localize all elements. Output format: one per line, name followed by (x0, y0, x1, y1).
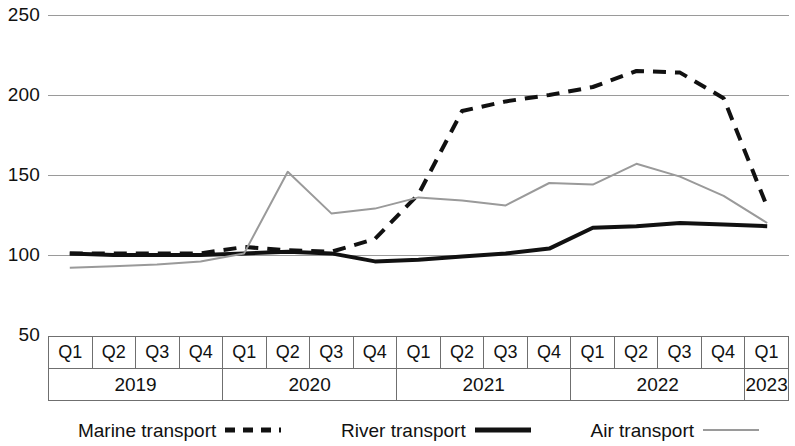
legend-label: Air transport (591, 421, 694, 440)
y-axis-tick-200: 200 (0, 85, 40, 104)
line-chart: 25020015010050 Q1Q2Q3Q4Q1Q2Q3Q4Q1Q2Q3Q4Q… (0, 0, 795, 446)
quarter-cell: Q3 (484, 337, 528, 369)
year-cell: 2022 (571, 369, 745, 401)
quarter-cell: Q2 (440, 337, 484, 369)
series-line-river-transport (70, 223, 767, 261)
quarter-row: Q1Q2Q3Q4Q1Q2Q3Q4Q1Q2Q3Q4Q1Q2Q3Q4Q1 (49, 337, 789, 369)
legend-item-river-transport: River transport (341, 421, 531, 440)
quarter-cell: Q4 (527, 337, 571, 369)
quarter-cell: Q3 (136, 337, 180, 369)
y-axis-tick-50: 50 (0, 325, 40, 344)
plot-area (48, 0, 789, 336)
quarter-cell: Q1 (397, 337, 441, 369)
quarter-cell: Q2 (266, 337, 310, 369)
legend-label: River transport (341, 421, 466, 440)
quarter-cell: Q4 (701, 337, 745, 369)
quarter-cell: Q1 (49, 337, 93, 369)
y-axis-tick-150: 150 (0, 165, 40, 184)
year-cell: 2019 (49, 369, 223, 401)
quarter-cell: Q1 (571, 337, 615, 369)
year-row: 20192020202120222023 (49, 369, 789, 401)
x-axis-table: Q1Q2Q3Q4Q1Q2Q3Q4Q1Q2Q3Q4Q1Q2Q3Q4Q1 20192… (48, 336, 789, 401)
quarter-cell: Q4 (353, 337, 397, 369)
y-axis-tick-100: 100 (0, 245, 40, 264)
legend: Marine transportRiver transportAir trans… (48, 414, 789, 446)
year-cell: 2020 (223, 369, 397, 401)
legend-label: Marine transport (78, 421, 216, 440)
legend-item-air-transport: Air transport (591, 421, 759, 440)
quarter-cell: Q1 (745, 337, 789, 369)
quarter-cell: Q4 (179, 337, 223, 369)
quarter-cell: Q3 (310, 337, 354, 369)
quarter-cell: Q1 (223, 337, 267, 369)
quarter-cell: Q3 (658, 337, 702, 369)
quarter-cell: Q2 (92, 337, 136, 369)
y-axis-tick-250: 250 (0, 5, 40, 24)
year-cell: 2023 (745, 369, 789, 401)
legend-item-marine-transport: Marine transport (78, 421, 281, 440)
dashed-line-swatch (225, 424, 281, 436)
series-line-air-transport (70, 164, 767, 268)
series-lines (48, 0, 789, 336)
thin-gray-line-swatch (703, 424, 759, 436)
quarter-cell: Q2 (614, 337, 658, 369)
solid-thick-line-swatch (475, 424, 531, 436)
year-cell: 2021 (397, 369, 571, 401)
